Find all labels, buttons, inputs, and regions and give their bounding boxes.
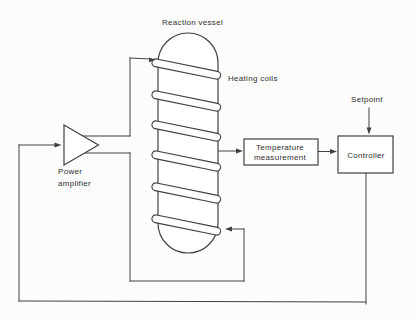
reaction-vessel-label: Reaction vessel	[162, 18, 223, 27]
power-amplifier-label-line2: amplifier	[58, 179, 91, 188]
feedback-bottom-line	[19, 301, 366, 302]
heating-coils-label: Heating coils	[228, 74, 278, 83]
temperature-measurement-label-line2: measurement	[254, 153, 307, 162]
controller-label: Controller	[347, 151, 385, 160]
coil-bottom-arrowhead	[225, 227, 232, 232]
power-amplifier-symbol	[64, 125, 99, 165]
setpoint-label: Setpoint	[351, 95, 383, 104]
temperature-measurement-label-line1: Temperature	[256, 143, 304, 152]
controller-input-arrowhead	[330, 149, 337, 154]
diagram-labels: Reaction vessel Heating coils Setpoint P…	[58, 18, 385, 188]
setpoint-arrowhead	[367, 128, 372, 135]
amplifier-input-arrowhead	[55, 143, 62, 148]
control-loop-diagram: Reaction vessel Heating coils Setpoint P…	[0, 0, 417, 319]
diagram-canvas: Reaction vessel Heating coils Setpoint P…	[0, 0, 417, 319]
power-amplifier-label-line1: Power	[58, 167, 82, 176]
diagram-shapes	[64, 33, 393, 253]
coil-supply-top-line	[130, 58, 150, 59]
temperature-input-arrowhead	[236, 149, 243, 154]
